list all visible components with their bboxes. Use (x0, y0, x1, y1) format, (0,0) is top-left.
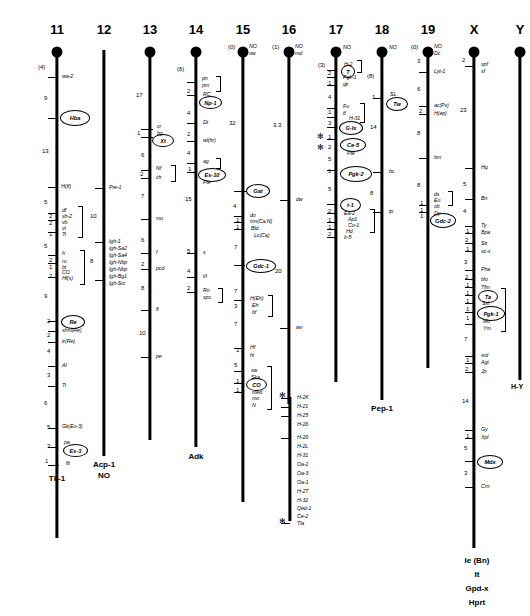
locus-tick (465, 233, 474, 234)
distance: 2 (49, 213, 52, 219)
top-annotation: ow (249, 51, 256, 56)
circled-locus: G-Ix (339, 121, 363, 135)
distance: 5 (44, 243, 47, 249)
locus-label: pe (156, 354, 162, 359)
locus-tick (141, 253, 150, 254)
locus-label: Hf(s) (62, 276, 73, 281)
locus-label: Pte (203, 180, 211, 185)
top-annotation: (1) (272, 44, 279, 50)
distance: 2 (328, 70, 331, 76)
locus-label: H(tf) (61, 184, 71, 189)
locus-label: Lyt-1 (434, 69, 445, 74)
distance: 3.3 (273, 122, 281, 128)
locus-tick (141, 137, 153, 138)
locus-label: Igh-1 (109, 239, 121, 244)
distance: 1 (466, 315, 469, 321)
locus-label: Ym (483, 326, 491, 331)
circled-locus: Xt (152, 134, 174, 147)
distance: 8 (417, 130, 420, 136)
distance: 5 (463, 181, 466, 187)
top-annotation: md (295, 51, 302, 56)
locus-tick (465, 168, 474, 169)
locus-tick (141, 310, 150, 311)
locus-label: Crn (481, 484, 489, 489)
chromosome-number-11: 11 (42, 22, 72, 37)
distance: 7 (234, 288, 237, 294)
locus-label: Pre-1 (109, 185, 121, 190)
locus-tick (373, 212, 382, 213)
locus-label: pcd (156, 266, 164, 271)
bracket (80, 250, 85, 285)
locus-tick (465, 372, 474, 373)
distance: 7 (141, 193, 144, 199)
locus-label: dw (296, 197, 303, 202)
distance: 1 (45, 458, 48, 464)
locus-tick (327, 127, 336, 128)
locus-tick (327, 222, 336, 223)
chromosome-number-13: 13 (135, 22, 165, 37)
distance: 1 (420, 213, 423, 219)
locus-label: ch (156, 175, 161, 180)
chromosome-number-18: 18 (367, 22, 397, 37)
locus-label: Xpl (481, 435, 488, 440)
locus-tick (465, 303, 474, 304)
locus-tick (234, 371, 243, 372)
distance: 2 (49, 220, 52, 226)
chromosome-number-X: X (459, 22, 489, 37)
distance: 5 (328, 186, 331, 192)
distance: 6 (141, 152, 144, 158)
chromosome-number-Y: Y (505, 22, 530, 37)
locus-label: qk (343, 82, 348, 87)
locus-tick (187, 141, 196, 142)
bracket (357, 60, 362, 73)
locus-label: Lc(Ca) (254, 233, 269, 238)
locus-label: Mo (483, 319, 490, 324)
locus-tick (141, 357, 150, 358)
locus-label: wl(hr) (203, 138, 216, 143)
locus-label: sw (251, 368, 257, 373)
distance: (3) (318, 62, 325, 68)
locus-label: fit (66, 461, 70, 466)
distance: 6 (417, 86, 420, 92)
distance: 2 (47, 318, 50, 324)
distance: 4 (187, 268, 190, 274)
locus-tick (465, 66, 474, 67)
bracket (268, 295, 273, 317)
locus-label: wa-2 (62, 74, 73, 79)
locus-label: H(Eh) (250, 296, 263, 301)
locus-tick (141, 269, 150, 270)
top-annotation: (0) (411, 44, 418, 50)
locus-label: Tla (297, 521, 304, 526)
distance: 2 (187, 88, 190, 94)
locus-tick (48, 366, 57, 367)
locus-label: bc (389, 169, 394, 174)
locus-tick (95, 242, 104, 243)
chromosome-bar-18 (380, 52, 383, 400)
locus-label: Tr (62, 232, 66, 237)
distance: 2 (49, 273, 52, 279)
locus-tick (327, 77, 336, 78)
locus-label: Hf (250, 345, 255, 350)
locus-label: Oa-2 (297, 462, 308, 467)
distance: 9 (44, 95, 47, 101)
locus-tick (465, 312, 474, 313)
locus-label: Bn (481, 196, 487, 201)
locus-tick (419, 114, 428, 115)
locus-label: Al (62, 363, 67, 368)
locus-tick (48, 386, 57, 387)
chromosome-bar-19 (426, 52, 429, 368)
locus-label: Rn (203, 288, 210, 293)
locus-label: mu (156, 216, 163, 221)
circled-locus: Gat (246, 184, 270, 198)
locus-label: Igh-Bg1 (109, 274, 127, 279)
locus-label: H-20 (297, 435, 308, 440)
chromosome-bar-13 (148, 52, 151, 440)
top-annotation: Dc (434, 51, 440, 56)
distance: (8) (367, 73, 374, 79)
distance: 3 (47, 443, 50, 449)
distance: 5 (44, 199, 47, 205)
chromosome-footer-label: It (475, 570, 480, 579)
asterisk-marker: ✻ (279, 518, 286, 526)
chromosome-bar-Y (518, 52, 521, 380)
locus-tick (234, 383, 243, 384)
